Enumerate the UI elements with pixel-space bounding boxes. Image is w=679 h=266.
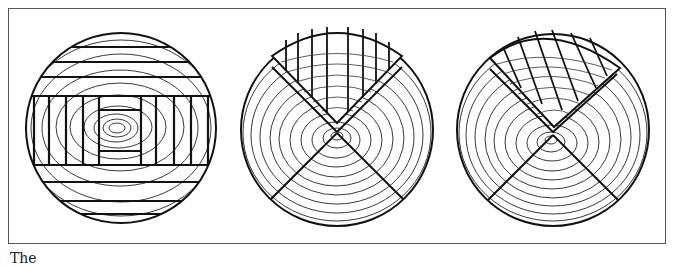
quarter-sector-vertical-boards [272, 27, 402, 123]
figure-caption: The [10, 251, 37, 265]
log-panel-2 [241, 27, 433, 226]
log-panel-3 [457, 30, 649, 226]
log-panel-1 [20, 33, 230, 223]
